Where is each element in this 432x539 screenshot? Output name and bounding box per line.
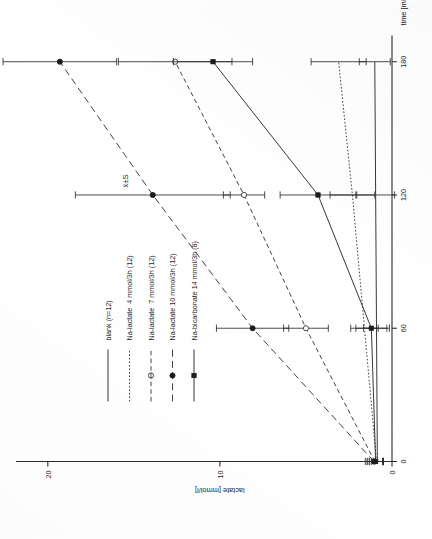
- data-point-marker: [303, 325, 308, 330]
- legend-label: Na-lactate 7 mmol/3h (12): [147, 255, 156, 340]
- data-point-marker: [211, 59, 215, 63]
- lactate-vs-time-chart: 06012018001020time [min]lactate [mmol/l]…: [0, 0, 432, 539]
- legend-label: Na-lactate 4 mmol/3h (12): [125, 255, 134, 340]
- series-layer: [3, 58, 395, 465]
- y-axis-tick-label: 20: [44, 470, 53, 478]
- x-axis-tick-label: 0: [399, 459, 408, 463]
- series-line: [375, 61, 378, 461]
- data-point-marker: [316, 192, 320, 196]
- data-point-marker: [373, 459, 377, 463]
- figure: 06012018001020time [min]lactate [mmol/l]…: [0, 0, 432, 539]
- data-point-marker: [57, 59, 62, 64]
- axes-layer: 06012018001020time [min]lactate [mmol/l]: [16, 0, 408, 494]
- series-2: [118, 58, 382, 465]
- legend-entry-1: Na-lactate 4 mmol/3h (12): [125, 255, 134, 401]
- x-axis-tick-label: 60: [399, 324, 408, 332]
- y-axis-tick-label: 0: [388, 470, 397, 474]
- legend-label: blank (n=12): [104, 300, 113, 340]
- series-4: [173, 58, 386, 465]
- series-1: [311, 58, 383, 465]
- legend-entry-4: Na-bicarbonate 14 mmol/3h (8): [190, 241, 199, 401]
- y-axis-tick-label: 10: [216, 470, 225, 478]
- data-point-marker: [369, 326, 373, 330]
- x-axis-tick-label: 120: [399, 188, 408, 200]
- annotation-layer: x̄±S: [121, 174, 130, 187]
- x-axis-title: time [min]: [399, 0, 408, 25]
- legend-entry-0: blank (n=12): [104, 300, 113, 401]
- legend-marker: [170, 372, 175, 377]
- data-point-marker: [241, 192, 246, 197]
- mean-sd-annotation: x̄±S: [121, 174, 130, 187]
- series-line: [60, 61, 374, 461]
- x-axis-tick-label: 180: [399, 55, 408, 67]
- rotated-figure-canvas: 06012018001020time [min]lactate [mmol/l]…: [0, 0, 432, 539]
- legend-marker: [192, 373, 196, 377]
- y-axis-title: lactate [mmol/l]: [195, 485, 245, 494]
- series-line: [213, 61, 376, 461]
- legend-label: Na-lactate 10 mmol/3h (12): [168, 253, 177, 340]
- data-point-marker: [250, 325, 255, 330]
- legend-label: Na-bicarbonate 14 mmol/3h (8): [190, 241, 199, 340]
- data-point-marker: [150, 192, 155, 197]
- legend-layer: blank (n=12)Na-lactate 4 mmol/3h (12)Na-…: [104, 241, 199, 401]
- legend-entry-3: Na-lactate 10 mmol/3h (12): [168, 253, 177, 401]
- legend-entry-2: Na-lactate 7 mmol/3h (12): [147, 255, 156, 401]
- series-0: [357, 58, 395, 465]
